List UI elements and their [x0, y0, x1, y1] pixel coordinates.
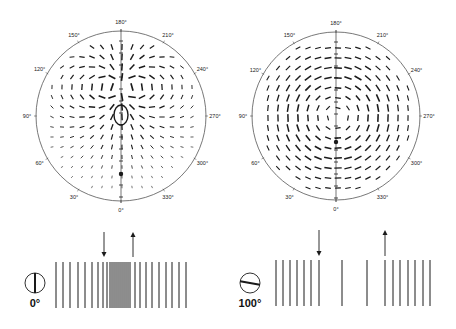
field-segment [305, 57, 311, 60]
field-segment [325, 87, 331, 89]
field-segment [141, 165, 142, 168]
field-segment [327, 116, 328, 121]
field-segment [305, 156, 311, 160]
field-segment [344, 157, 352, 159]
field-segment [316, 125, 319, 130]
field-segment [305, 85, 310, 90]
field-segment [355, 167, 361, 170]
field-segment [366, 95, 370, 101]
field-segment [397, 95, 399, 101]
field-segment [50, 116, 53, 118]
field-segment [111, 114, 114, 120]
field-segment [89, 56, 94, 58]
field-segment [376, 145, 380, 151]
field-segment [181, 95, 183, 99]
field-segment [345, 147, 352, 149]
field-segment [344, 77, 351, 79]
angle-label: 120° [250, 67, 261, 73]
field-segment [305, 177, 311, 180]
field-segment [325, 137, 331, 139]
field-segment [355, 66, 362, 69]
field-segment [287, 124, 289, 131]
field-segment [91, 166, 93, 169]
angle-label: 60° [35, 160, 43, 166]
field-segment [139, 95, 145, 98]
field-segment [366, 135, 370, 141]
field-segment [307, 125, 310, 131]
field-segment [267, 85, 269, 90]
field-segment [295, 156, 300, 161]
field-segment [296, 56, 301, 59]
field-segment [397, 135, 399, 141]
field-segment [130, 54, 133, 60]
angle-label: 30° [70, 194, 78, 200]
field-segment [60, 106, 64, 109]
field-segment [276, 156, 279, 161]
field-segment [376, 166, 381, 170]
up-arrowhead-icon [131, 232, 136, 237]
field-segment [170, 146, 173, 148]
field-segment [102, 176, 103, 179]
field-segment [315, 167, 322, 169]
field-segment [365, 85, 370, 91]
field-segment [407, 95, 408, 100]
field-segment [315, 177, 321, 179]
field-segment [101, 135, 104, 139]
field-segment [80, 95, 84, 100]
field-segment [170, 117, 175, 118]
field-segment [325, 58, 332, 59]
field-segment [305, 47, 310, 49]
field-segment [346, 106, 349, 111]
field-segment [111, 83, 114, 91]
field-segment [80, 146, 83, 148]
field-segment [108, 96, 115, 98]
field-segment [90, 45, 94, 48]
field-segment [170, 106, 174, 109]
field-segment [376, 85, 380, 91]
field-segment [295, 166, 300, 170]
field-segment [296, 135, 300, 142]
field-segment [139, 115, 144, 119]
field-segment [277, 95, 279, 101]
field-segment [295, 75, 300, 80]
field-segment [128, 76, 135, 78]
field-segment [111, 124, 113, 130]
field-segment [140, 125, 144, 129]
field-segment [71, 176, 73, 178]
field-segment [79, 57, 84, 58]
field-segment [61, 95, 63, 99]
field-segment [70, 117, 75, 118]
field-segment [345, 136, 351, 139]
field-segment [151, 166, 153, 169]
field-segment [365, 177, 370, 180]
field-segment [286, 56, 290, 59]
field-segment [365, 145, 371, 151]
field-segment [170, 66, 174, 68]
field-segment [287, 94, 290, 101]
field-segment [376, 94, 379, 101]
field-segment [387, 124, 389, 131]
field-segment [112, 155, 113, 159]
field-segment [51, 106, 54, 109]
field-segment [100, 55, 105, 59]
field-segment [306, 187, 311, 189]
down-arrowhead-icon [317, 251, 322, 256]
field-segment [306, 95, 310, 101]
field-segment [160, 126, 165, 127]
field-segment [121, 73, 122, 81]
field-segment [345, 188, 351, 189]
field-segment [110, 64, 114, 70]
angle-label: 270° [209, 113, 220, 119]
field-segment [407, 86, 409, 91]
field-segment [70, 136, 74, 137]
field-segment [80, 75, 84, 79]
field-segment [70, 146, 73, 148]
field-segment [129, 105, 134, 110]
field-segment [277, 85, 280, 91]
field-segment [161, 156, 164, 158]
field-segment [286, 135, 289, 142]
angle-label: 180° [115, 19, 126, 25]
field-segment [71, 166, 73, 168]
field-segment [151, 145, 154, 148]
field-segment [160, 136, 164, 138]
